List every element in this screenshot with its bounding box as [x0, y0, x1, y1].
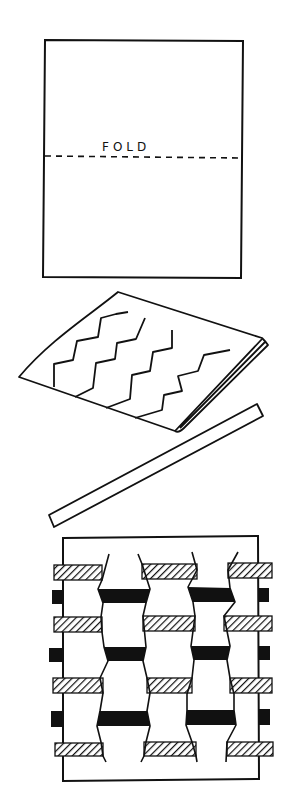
fold-line [45, 156, 240, 158]
black-strip-segment [52, 590, 63, 604]
folded-sheet-outline [19, 292, 268, 432]
black-strip-segment [97, 711, 150, 726]
black-strip-segment [258, 709, 270, 725]
hatched-strip-segment [143, 616, 195, 631]
black-strip-segment [98, 589, 150, 603]
paper-strip-outline [49, 404, 263, 527]
black-strip-segment [51, 711, 63, 727]
black-strip-segment [188, 587, 235, 602]
hatched-strip-segment [55, 743, 103, 756]
black-strip-segment [258, 646, 270, 660]
hatched-strip-segment [54, 565, 102, 580]
black-strip-segment [186, 710, 236, 725]
fold-label: FOLD [102, 140, 150, 154]
hatched-strip-segment [144, 742, 196, 756]
step-1-sheet: FOLD [43, 40, 243, 278]
hatched-strip-segment [54, 617, 102, 632]
hatched-strip-segment [224, 616, 272, 631]
step-2-folded-sheet [19, 292, 268, 432]
black-strip-segment [49, 648, 63, 662]
cut-line-3 [106, 330, 172, 408]
step-3-woven-mat [49, 536, 273, 781]
black-strip-segment [104, 647, 146, 661]
warp-slit-1 [97, 554, 109, 762]
hatched-strip-segment [53, 678, 103, 693]
black-strips [49, 587, 270, 727]
instruction-diagram: FOLD [0, 0, 294, 809]
hatched-strip-segment [230, 678, 272, 693]
hatched-strip-segment [142, 564, 197, 579]
sheet-outline [43, 40, 243, 278]
cut-line-2 [75, 318, 145, 397]
hatched-strips [53, 563, 273, 756]
paper-strip [49, 404, 263, 527]
hatched-strip-segment [228, 563, 272, 578]
black-strip-segment [258, 588, 269, 602]
hatched-strip-segment [227, 742, 273, 756]
cut-line-4 [135, 350, 230, 418]
black-strip-segment [191, 646, 230, 660]
hatched-strip-segment [147, 678, 192, 693]
